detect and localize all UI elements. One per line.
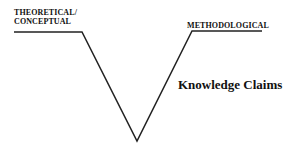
theoretical-conceptual-label: THEORETICAL/ CONCEPTUAL [14, 8, 77, 26]
methodological-label: METHODOLOGICAL [187, 21, 269, 30]
left-label-line2: CONCEPTUAL [14, 17, 77, 26]
left-label-line1: THEORETICAL/ [14, 8, 77, 17]
knowledge-claims-label: Knowledge Claims [178, 77, 282, 92]
